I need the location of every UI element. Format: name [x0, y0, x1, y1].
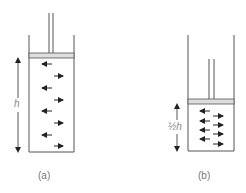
cylinder-b: [188, 35, 234, 151]
diagram-canvas: [0, 0, 246, 193]
piston-b: [188, 99, 234, 104]
height-label-a: h: [14, 98, 20, 109]
molecule-arrows-b: [200, 111, 223, 144]
piston-a: [29, 53, 74, 58]
cylinder-a: [29, 13, 74, 152]
height-label-b: ½h: [168, 121, 182, 132]
molecule-arrows-a: [42, 64, 63, 146]
caption-b: (b): [198, 170, 210, 181]
caption-a: (a): [38, 170, 50, 181]
